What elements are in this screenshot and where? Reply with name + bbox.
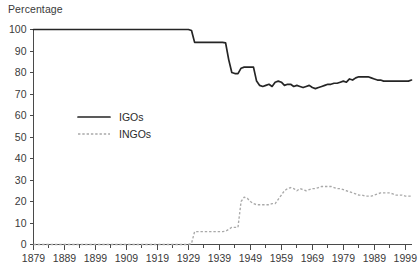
x-tick-label: 1979 — [332, 252, 356, 264]
y-axis-ticks: 0102030405060708090100 — [9, 23, 34, 250]
x-tick-label: 1879 — [22, 252, 46, 264]
y-tick-label: 20 — [15, 195, 27, 207]
x-tick-label: 1889 — [53, 252, 77, 264]
y-tick-label: 10 — [15, 217, 27, 229]
y-tick-label: 30 — [15, 174, 27, 186]
series-line-ingos — [34, 186, 412, 244]
y-tick-label: 100 — [9, 23, 27, 35]
x-tick-label: 1929 — [177, 252, 201, 264]
y-tick-label: 90 — [15, 45, 27, 57]
y-tick-label: 70 — [15, 88, 27, 100]
y-tick-label: 60 — [15, 109, 27, 121]
x-tick-label: 1959 — [270, 252, 294, 264]
chart-legend: IGOsINGOs — [78, 111, 151, 140]
x-axis-ticks: 1879188918991909191919291939194919591969… — [22, 245, 417, 264]
x-tick-label: 1939 — [208, 252, 232, 264]
x-tick-label: 1909 — [115, 252, 139, 264]
line-chart: 0102030405060708090100 18791889189919091… — [0, 0, 418, 273]
chart-container: Percentage 0102030405060708090100 187918… — [0, 0, 418, 273]
x-tick-label: 1999 — [394, 252, 418, 264]
y-tick-label: 80 — [15, 66, 27, 78]
y-tick-label: 50 — [15, 131, 27, 143]
x-tick-label: 1969 — [301, 252, 325, 264]
x-tick-label: 1899 — [84, 252, 108, 264]
legend-label-ingos: INGOs — [119, 128, 151, 140]
y-tick-label: 40 — [15, 152, 27, 164]
series-line-igos — [34, 30, 412, 89]
x-tick-label: 1989 — [363, 252, 387, 264]
legend-label-igos: IGOs — [119, 111, 144, 123]
x-tick-label: 1919 — [146, 252, 170, 264]
x-tick-label: 1949 — [239, 252, 263, 264]
y-tick-label: 0 — [21, 238, 27, 250]
